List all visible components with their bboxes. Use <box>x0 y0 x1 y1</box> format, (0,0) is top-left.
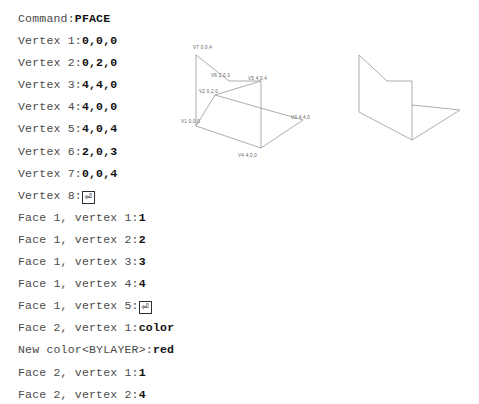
line-prompt: Face 2, vertex 1: <box>18 366 139 379</box>
line-prompt: Face 1, vertex 5: <box>18 299 139 312</box>
wireframe-edges <box>196 55 303 148</box>
transcript-line: Face 1, vertex 3:3 <box>18 251 208 273</box>
line-prompt: Vertex 4: <box>18 100 82 113</box>
line-value: 2,0,3 <box>82 145 118 158</box>
line-prompt: Command: <box>18 12 75 25</box>
line-prompt: Face 2, vertex 1: <box>18 321 139 334</box>
transcript-line: Face 1, vertex 2:2 <box>18 229 208 251</box>
line-prompt: Vertex 7: <box>18 167 82 180</box>
line-prompt: Vertex 8: <box>18 189 82 202</box>
vertex-label-v7: V7 0,0,4 <box>193 45 212 50</box>
transcript-line: Vertex 7:0,0,4 <box>18 163 208 185</box>
pface-result-solid <box>340 48 470 158</box>
transcript-line: Face 2, vertex 1:color <box>18 317 208 339</box>
transcript-line: Face 2, vertex 1:1 <box>18 362 208 384</box>
line-value: 0,2,0 <box>82 56 118 69</box>
vertex-label-v5: V5 4,0,4 <box>248 76 267 81</box>
line-prompt: Vertex 2: <box>18 56 82 69</box>
line-value: 4,0,0 <box>82 100 118 113</box>
line-value: 1 <box>139 366 146 379</box>
line-prompt: Vertex 5: <box>18 122 82 135</box>
line-prompt: Vertex 3: <box>18 78 82 91</box>
vertex-label-v6: V6 2,0,3 <box>211 73 230 78</box>
enter-key-icon: ⏎ <box>139 301 152 314</box>
line-prompt: New color<BYLAYER>: <box>18 343 153 356</box>
solid-svg <box>340 48 470 158</box>
line-value: 4 <box>139 277 146 290</box>
line-prompt: Vertex 1: <box>18 34 82 47</box>
transcript-line: Vertex 8:⏎ <box>18 185 208 207</box>
transcript-line: Face 1, vertex 4:4 <box>18 273 208 295</box>
transcript-line: Face 2, vertex 2:4 <box>18 384 208 404</box>
transcript-line: Face 1, vertex 1:1 <box>18 207 208 229</box>
wireframe-svg: V7 0,0,4 V6 2,0,3 V5 4,0,4 V2 0,2,0 V1 0… <box>175 30 325 165</box>
vertex-label-v2: V2 0,2,0 <box>199 89 218 94</box>
line-value: 4 <box>139 388 146 401</box>
line-value: PFACE <box>75 12 111 25</box>
line-value: 4,0,4 <box>82 122 118 135</box>
enter-key-icon: ⏎ <box>82 191 95 204</box>
transcript-line: Face 1, vertex 5:⏎ <box>18 295 208 317</box>
transcript-line: Command:PFACE <box>18 8 208 30</box>
line-prompt: Face 1, vertex 1: <box>18 211 139 224</box>
vertex-label-v1: V1 0,0,0 <box>181 119 200 124</box>
line-prompt: Vertex 6: <box>18 145 82 158</box>
pface-vertex-wireframe: V7 0,0,4 V6 2,0,3 V5 4,0,4 V2 0,2,0 V1 0… <box>175 30 325 165</box>
line-value: color <box>139 321 175 334</box>
line-prompt: Face 1, vertex 3: <box>18 255 139 268</box>
transcript-line: New color<BYLAYER>:red <box>18 339 208 361</box>
line-value: red <box>153 343 174 356</box>
vertex-label-v3: V3 4,4,0 <box>291 115 310 120</box>
line-value: 4,4,0 <box>82 78 118 91</box>
line-value: 3 <box>139 255 146 268</box>
line-prompt: Face 2, vertex 2: <box>18 388 139 401</box>
solid-edges <box>359 55 460 140</box>
line-value: 0,0,4 <box>82 167 118 180</box>
line-value: 0,0,0 <box>82 34 118 47</box>
vertex-label-v4: V4 4,0,0 <box>238 153 257 158</box>
line-value: 1 <box>139 211 146 224</box>
line-prompt: Face 1, vertex 2: <box>18 233 139 246</box>
line-value: 2 <box>139 233 146 246</box>
line-prompt: Face 1, vertex 4: <box>18 277 139 290</box>
